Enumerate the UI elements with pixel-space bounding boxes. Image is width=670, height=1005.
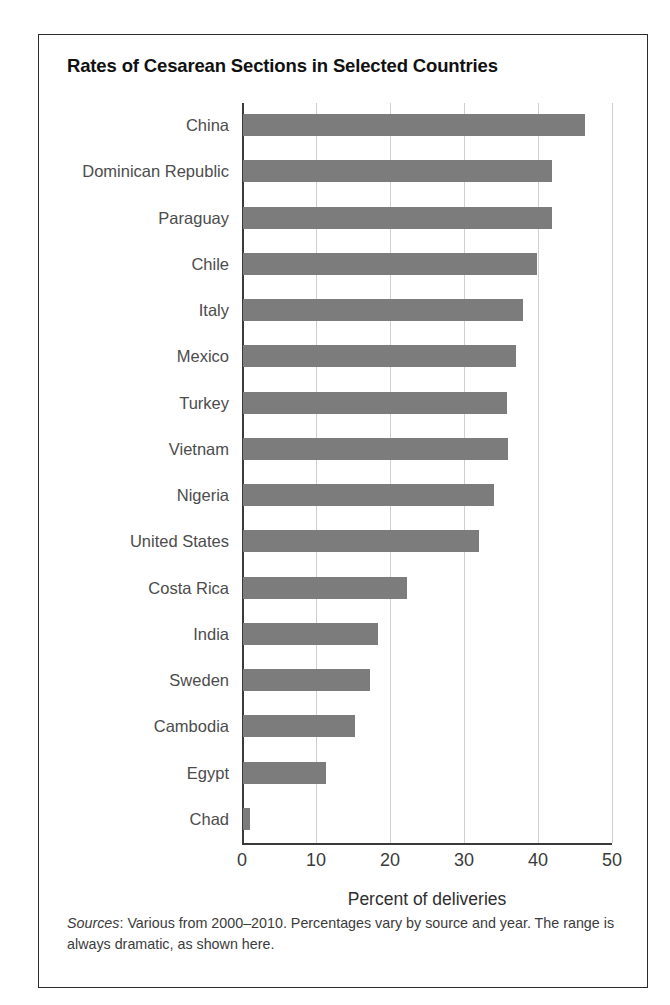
bar — [243, 345, 516, 367]
bar — [243, 207, 552, 229]
bar-category-label: Chile — [191, 256, 229, 273]
bar — [243, 253, 537, 275]
bar-row: Turkey — [242, 392, 612, 414]
bar — [243, 160, 552, 182]
bar-row: Mexico — [242, 345, 612, 367]
source-note: Sources: Various from 2000–2010. Percent… — [67, 913, 623, 954]
figure-frame: Rates of Cesarean Sections in Selected C… — [38, 34, 648, 988]
bar-row: Nigeria — [242, 484, 612, 506]
bar-category-label: Turkey — [179, 394, 229, 411]
bar-row: Sweden — [242, 669, 612, 691]
bar-category-label: Chad — [190, 811, 229, 828]
bar-category-label: Paraguay — [158, 209, 229, 226]
bar-row: Chad — [242, 808, 612, 830]
bar-row: Egypt — [242, 762, 612, 784]
bar — [243, 623, 378, 645]
bar-category-label: Costa Rica — [148, 579, 229, 596]
gridline-50 — [612, 103, 613, 843]
bar — [243, 438, 508, 460]
bar-category-label: India — [193, 626, 229, 643]
bar-chart-plot-area: ChinaDominican RepublicParaguayChileItal… — [242, 103, 612, 843]
bar-row: United States — [242, 530, 612, 552]
x-tick-label-50: 50 — [602, 851, 622, 869]
bar-category-label: China — [186, 117, 229, 134]
bar-row: Italy — [242, 299, 612, 321]
bar — [243, 669, 370, 691]
page-title: Rates of Cesarean Sections in Selected C… — [67, 55, 498, 77]
bar-category-label: Vietnam — [169, 441, 229, 458]
x-tick-label-20: 20 — [380, 851, 400, 869]
bar-row: Cambodia — [242, 715, 612, 737]
x-tick-label-40: 40 — [528, 851, 548, 869]
bar — [243, 577, 407, 599]
bar-category-label: Sweden — [169, 672, 229, 689]
bar-category-label: Dominican Republic — [82, 163, 229, 180]
x-axis-line — [242, 843, 612, 845]
x-tick-label-10: 10 — [306, 851, 326, 869]
bar-category-label: Italy — [199, 302, 229, 319]
bar-row: India — [242, 623, 612, 645]
bar — [243, 299, 523, 321]
x-tick-label-30: 30 — [454, 851, 474, 869]
bar — [243, 715, 355, 737]
bar-category-label: Cambodia — [154, 718, 229, 735]
bar-row: China — [242, 114, 612, 136]
source-label: Sources — [67, 915, 119, 931]
bar — [243, 114, 585, 136]
bar-row: Paraguay — [242, 207, 612, 229]
bar — [243, 762, 326, 784]
bar-category-label: Egypt — [187, 764, 229, 781]
source-text: : Various from 2000–2010. Percentages va… — [67, 915, 614, 952]
bar-row: Vietnam — [242, 438, 612, 460]
bar — [243, 392, 507, 414]
bar-row: Chile — [242, 253, 612, 275]
bar-category-label: Mexico — [177, 348, 229, 365]
x-axis-title: Percent of deliveries — [242, 889, 612, 910]
bar-category-label: United States — [130, 533, 229, 550]
bar — [243, 530, 479, 552]
bar-row: Costa Rica — [242, 577, 612, 599]
bar — [243, 484, 494, 506]
bar-category-label: Nigeria — [177, 487, 229, 504]
bar-row: Dominican Republic — [242, 160, 612, 182]
bar — [243, 808, 250, 830]
x-tick-label-0: 0 — [237, 851, 247, 869]
